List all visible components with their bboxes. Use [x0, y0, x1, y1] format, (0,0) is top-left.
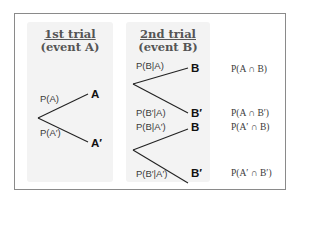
prob-label-b-given-a: P(B|A) — [136, 60, 164, 71]
joint-a-prime-and-b: P(A′ ∩ B) — [231, 122, 270, 132]
prob-label-b-prime-given-a: P(B′|A) — [136, 107, 166, 118]
outcome-a-prime: A′ — [91, 137, 102, 149]
prob-label-b-prime-given-a-prime: P(B′|A′) — [136, 168, 167, 179]
outcome-b-prime-2: B′ — [191, 167, 202, 179]
prob-label-a: P(A) — [40, 93, 59, 104]
outcome-b-2: B — [191, 121, 199, 133]
joint-a-and-b-prime: P(A ∩ B′) — [231, 108, 269, 118]
joint-a-and-b: P(A ∩ B) — [231, 64, 267, 74]
joint-a-prime-and-b-prime: P(A′ ∩ B′) — [231, 168, 272, 178]
outcome-a: A — [91, 88, 99, 100]
outcome-b-1: B — [191, 62, 199, 74]
prob-label-a-prime: P(A′) — [40, 127, 61, 138]
branch-b-given-a-prime — [133, 129, 188, 150]
prob-label-b-given-a-prime: P(B|A′) — [136, 121, 166, 132]
outcome-b-prime-1: B′ — [191, 107, 202, 119]
